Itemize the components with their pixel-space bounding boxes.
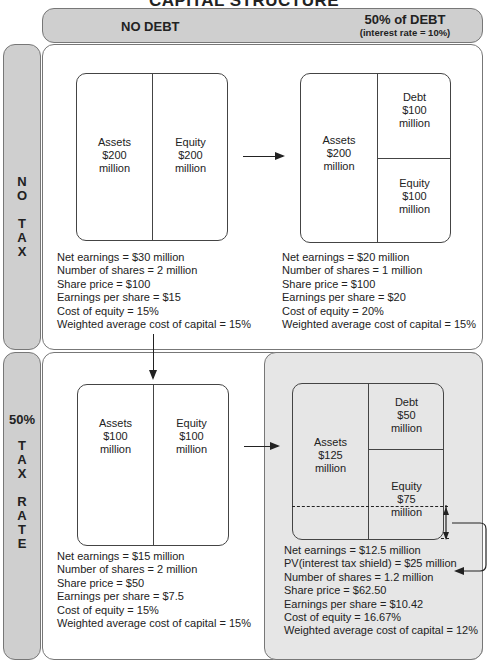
divider (153, 385, 154, 545)
row-letter: X (4, 467, 40, 481)
tax-shield-dashed-line (292, 506, 448, 507)
arrow-down-icon (153, 334, 154, 378)
assets-label: Assets $200 million (77, 136, 152, 175)
equity-label: Equity $200 million (153, 136, 228, 175)
row-letter: O (4, 189, 40, 203)
divider (368, 449, 443, 450)
balance-sheet-no-tax-debt: Assets $200 million Debt $100 million Eq… (300, 73, 451, 243)
row-letter: T (4, 439, 40, 453)
row-letter: X (4, 245, 40, 259)
stats-no-tax-debt: Net earnings = $20 million Number of sha… (282, 251, 476, 331)
row-tax-percent: 50% (4, 413, 40, 427)
assets-label: Assets $200 million (301, 134, 377, 173)
row-header-no-tax: N O T A X (3, 44, 41, 350)
assets-label: Assets $125 million (293, 436, 368, 475)
equity-label: Equity $100 million (154, 417, 229, 456)
arrow-right-icon (243, 156, 283, 157)
column-header-debt-note: (interest rate = 10%) (335, 27, 475, 38)
debt-label: Debt $50 million (369, 396, 444, 435)
column-header-bar: NO DEBT 50% of DEBT (interest rate = 10%… (42, 8, 483, 43)
row-label-tax: 50% T A X R A T E (4, 413, 40, 551)
row-letter: R (4, 495, 40, 509)
divider (377, 158, 450, 159)
stats-tax-no-debt: Net earnings = $15 million Number of sha… (57, 550, 251, 630)
row-label-no-tax: N O T A X (4, 175, 40, 259)
debt-label: Debt $100 million (378, 91, 451, 130)
stats-tax-debt: Net earnings = $12.5 million PV(interest… (284, 544, 478, 638)
balance-sheet-no-tax-no-debt: Assets $200 million Equity $200 million (76, 73, 228, 241)
column-header-debt-label: 50% of DEBT (365, 12, 446, 27)
row-letter: A (4, 453, 40, 467)
column-header-debt: 50% of DEBT (interest rate = 10%) (335, 13, 475, 38)
row-letter: N (4, 175, 40, 189)
equity-label: Equity $100 million (378, 177, 451, 216)
row-letter: T (4, 523, 40, 537)
assets-label: Assets $100 million (78, 417, 153, 456)
row-letter: T (4, 217, 40, 231)
equity-label: Equity $75 million (369, 480, 444, 519)
balance-sheet-tax-no-debt: Assets $100 million Equity $100 million (77, 384, 229, 546)
balance-sheet-tax-debt: Assets $125 million Debt $50 million Equ… (292, 383, 444, 540)
arrow-right-icon (244, 446, 278, 447)
stats-no-tax-no-debt: Net earnings = $30 million Number of sha… (57, 251, 251, 331)
row-header-tax: 50% T A X R A T E (3, 352, 41, 660)
row-letter: E (4, 537, 40, 551)
row-letter: A (4, 231, 40, 245)
row-letter: A (4, 509, 40, 523)
column-header-no-debt: NO DEBT (121, 19, 180, 34)
